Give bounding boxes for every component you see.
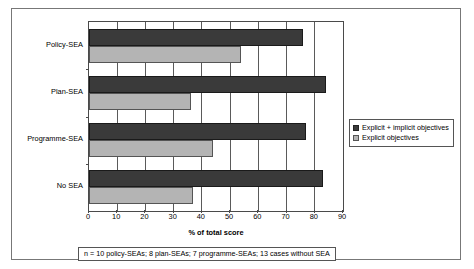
- x-tick-label-90: 90: [331, 212, 353, 221]
- bar-no-sea-explicit-implicit: [89, 170, 323, 187]
- y-tick-0: [86, 69, 89, 70]
- bar-no-sea-explicit: [89, 187, 193, 204]
- x-tick-label-70: 70: [275, 212, 297, 221]
- bar-programme-sea-explicit-implicit: [89, 123, 306, 140]
- y-tick-2: [86, 164, 89, 165]
- x-tick-label-50: 50: [218, 212, 240, 221]
- legend-item-explicit: Explicit objectives: [353, 133, 449, 143]
- x-tick-label-40: 40: [190, 212, 212, 221]
- x-tick-label-20: 20: [133, 212, 155, 221]
- y-tick-1: [86, 117, 89, 118]
- bar-programme-sea-explicit: [89, 140, 213, 157]
- y-category-label-2: Programme-SEA: [14, 134, 88, 143]
- gridline-90: [343, 22, 344, 211]
- bar-plan-sea-explicit-implicit: [89, 76, 326, 93]
- x-tick-label-10: 10: [105, 212, 127, 221]
- x-tick-label-60: 60: [246, 212, 268, 221]
- y-category-label-1: Plan-SEA: [14, 87, 88, 96]
- legend-swatch-light-icon: [353, 135, 359, 141]
- plot-area: [88, 21, 344, 212]
- bar-policy-sea-explicit: [89, 46, 241, 63]
- chart-legend: Explicit + implicit objectives Explicit …: [349, 119, 454, 147]
- x-axis-title: % of total score: [88, 228, 344, 237]
- x-tick-label-80: 80: [303, 212, 325, 221]
- bar-plan-sea-explicit: [89, 93, 191, 110]
- chart-footnote: n = 10 policy-SEAs; 8 plan-SEAs; 7 progr…: [78, 247, 336, 261]
- legend-label: Explicit + implicit objectives: [362, 123, 449, 133]
- chart-figure: % of total score Explicit + implicit obj…: [11, 8, 461, 260]
- legend-item-explicit-implicit: Explicit + implicit objectives: [353, 123, 449, 133]
- legend-label: Explicit objectives: [362, 133, 419, 143]
- y-category-label-3: No SEA: [14, 181, 88, 190]
- x-tick-label-30: 30: [162, 212, 184, 221]
- bar-policy-sea-explicit-implicit: [89, 29, 303, 46]
- legend-swatch-dark-icon: [353, 125, 359, 131]
- x-tick-label-0: 0: [77, 212, 99, 221]
- y-category-label-0: Policy-SEA: [14, 40, 88, 49]
